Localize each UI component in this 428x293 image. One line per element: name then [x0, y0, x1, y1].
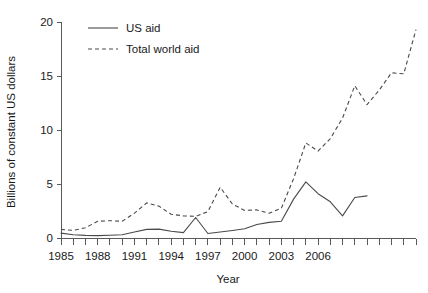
legend-label-total-world-aid: Total world aid: [126, 43, 200, 55]
y-tick-label: 5: [47, 178, 53, 190]
series-line-total-world-aid: [61, 30, 416, 231]
x-axis-title: Year: [216, 273, 239, 285]
x-tick-label: 1994: [158, 250, 184, 262]
chart-container: 05101520 1985198819911994199720002003200…: [0, 0, 428, 293]
y-tick-label: 0: [47, 232, 53, 244]
x-tick-label: 1985: [48, 250, 74, 262]
legend-label-us-aid: US aid: [126, 22, 161, 34]
y-tick-label: 15: [40, 70, 53, 82]
series-line-us-aid: [61, 182, 367, 236]
y-axis-ticks: [57, 22, 61, 238]
chart-legend: US aid Total world aid: [88, 22, 200, 55]
y-axis-title: Billions of constant US dollars: [5, 56, 17, 208]
x-tick-label: 1997: [195, 250, 221, 262]
x-tick-label: 1991: [122, 250, 148, 262]
y-tick-label: 10: [40, 124, 53, 136]
x-tick-label: 1988: [85, 250, 111, 262]
x-axis-tick-labels: 19851988199119941997200020032006: [48, 250, 331, 262]
x-tick-label: 2006: [305, 250, 331, 262]
line-chart: 05101520 1985198819911994199720002003200…: [0, 0, 428, 293]
x-tick-label: 2003: [269, 250, 295, 262]
x-axis-ticks: [61, 239, 416, 245]
y-axis-tick-labels: 05101520: [40, 16, 53, 244]
y-tick-label: 20: [40, 16, 53, 28]
x-tick-label: 2000: [232, 250, 258, 262]
